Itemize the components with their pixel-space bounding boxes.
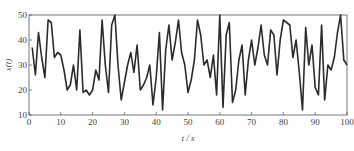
x-tick-label: 100 bbox=[340, 117, 354, 127]
y-tick-label: 10 bbox=[18, 110, 28, 120]
x-tick-label: 20 bbox=[88, 117, 98, 127]
series-line bbox=[32, 15, 347, 110]
x-axis-label: t / s bbox=[181, 133, 195, 143]
x-tick-label: 60 bbox=[215, 117, 225, 127]
y-tick-label: 30 bbox=[18, 60, 28, 70]
line-chart: 0102030405060708090100 1020304050 t / s … bbox=[0, 0, 354, 151]
x-tick-label: 50 bbox=[184, 117, 194, 127]
x-tick-label: 0 bbox=[27, 117, 32, 127]
y-axis-label: x(t) bbox=[3, 59, 13, 73]
y-tick-label: 20 bbox=[18, 85, 28, 95]
x-tick-label: 70 bbox=[247, 117, 257, 127]
x-axis-ticks: 0102030405060708090100 bbox=[27, 112, 354, 127]
x-tick-label: 90 bbox=[311, 117, 321, 127]
y-axis-ticks: 1020304050 bbox=[18, 10, 32, 120]
x-tick-label: 40 bbox=[152, 117, 162, 127]
y-tick-label: 50 bbox=[18, 10, 28, 20]
x-tick-label: 80 bbox=[279, 117, 289, 127]
plot-area bbox=[29, 15, 347, 115]
x-tick-label: 10 bbox=[56, 117, 66, 127]
x-tick-label: 30 bbox=[120, 117, 130, 127]
y-tick-label: 40 bbox=[18, 35, 28, 45]
